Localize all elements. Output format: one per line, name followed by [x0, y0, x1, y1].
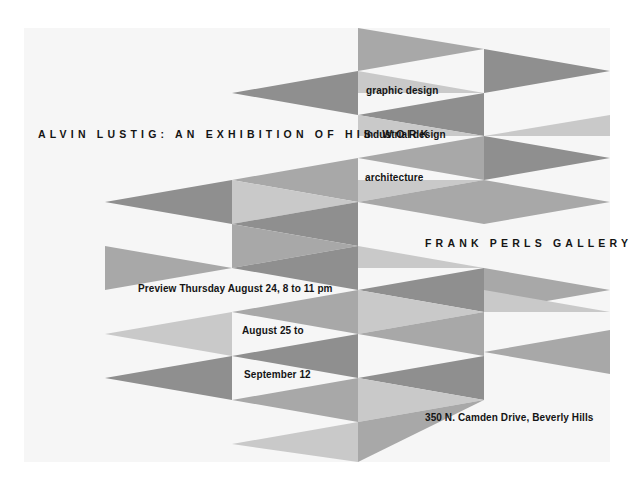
wedge [484, 330, 610, 374]
wedge [105, 356, 232, 400]
wedge [484, 136, 610, 180]
wedge [484, 115, 610, 136]
gallery-address: 350 N. Camden Drive, Beverly Hills [425, 412, 593, 423]
date-start: August 25 to [242, 325, 304, 336]
wedge [105, 312, 232, 356]
discipline-graphic-design: graphic design [366, 85, 439, 96]
wedge [484, 49, 610, 93]
wedge [358, 246, 484, 268]
wedge [232, 378, 358, 422]
wedge [484, 180, 610, 224]
preview-info: Preview Thursday August 24, 8 to 11 pm [138, 283, 333, 294]
wedge [232, 422, 358, 462]
wedge [358, 28, 484, 71]
wedge [105, 180, 232, 224]
date-end: September 12 [244, 369, 311, 380]
gallery-name: FRANK PERLS GALLERY [425, 237, 632, 249]
discipline-architecture: architecture [365, 172, 423, 183]
wedge [232, 71, 358, 115]
discipline-industrial-design: industrial design [364, 129, 446, 140]
